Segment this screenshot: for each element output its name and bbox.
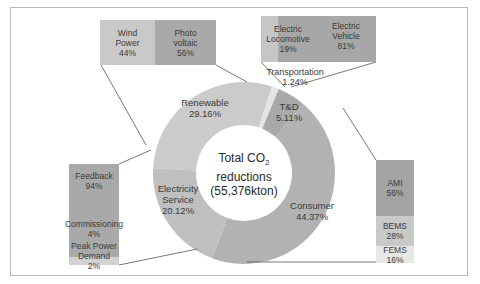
subscript-2: 2 (265, 158, 269, 167)
ami-pct: 56% (386, 188, 403, 198)
electricity-service-name-2: Service (150, 194, 206, 205)
connector-ami-top (343, 108, 376, 160)
connector-feedback-top (119, 150, 151, 164)
peak-power-demand-label-2: Demand (78, 251, 110, 261)
chart-canvas: Wind Power 44% Photo voltaic 56% Electri… (0, 0, 480, 284)
bems-bar: BEMS 28% (376, 216, 414, 246)
electric-locomotive-pct: 19% (279, 44, 296, 54)
wind-power-pct: 44% (119, 48, 136, 58)
peak-power-demand-text: Peak Power Demand 2% (62, 240, 126, 272)
bems-pct: 28% (386, 231, 403, 241)
photovoltaic-pct: 56% (177, 48, 194, 58)
feedback-text: Feedback 94% (69, 170, 119, 192)
bems-label: BEMS (383, 221, 407, 231)
ami-bar: AMI 56% (376, 160, 414, 216)
connector-wind-left (101, 65, 146, 145)
electricity-service-name-1: Electricity (150, 183, 206, 194)
center-title-line-2: reductions (199, 170, 289, 184)
electric-locomotive-label-1: Electric (274, 24, 302, 34)
fems-label: FEMS (383, 245, 407, 255)
renewable-pct: 29.16% (170, 108, 240, 119)
peak-power-demand-label-1: Peak Power (71, 241, 117, 251)
td-slice-label: T&D 5.11% (269, 101, 309, 123)
electric-vehicle-label-1: Electric (332, 21, 360, 31)
fems-pct: 16% (386, 255, 403, 265)
connector-pv-right (216, 65, 247, 82)
electric-locomotive-label-2: Locomotive (266, 34, 309, 44)
td-name: T&D (269, 101, 309, 112)
consumer-pct: 44.37% (284, 211, 340, 222)
peak-power-demand-pct: 2% (88, 261, 100, 271)
transportation-slice-label: Transportation 1.24% (262, 67, 328, 87)
renewable-slice-label: Renewable 29.16% (170, 97, 240, 119)
ami-label: AMI (387, 178, 402, 188)
commissioning-text: Commissioning 4% (60, 218, 128, 240)
commissioning-pct: 4% (88, 229, 100, 239)
renewable-name: Renewable (170, 97, 240, 108)
commissioning-label: Commissioning (65, 219, 123, 229)
wind-power-label-2: Power (115, 38, 139, 48)
feedback-pct: 94% (85, 181, 102, 191)
wind-power-bar: Wind Power 44% (100, 20, 155, 65)
photovoltaic-label-2: voltaic (173, 38, 197, 48)
photovoltaic-bar: Photo voltaic 56% (155, 20, 216, 65)
consumer-slice-label: Consumer 44.37% (284, 200, 340, 222)
electric-vehicle-text: Electric Vehicle 81% (326, 17, 366, 55)
center-total: (55,376kton) (199, 184, 289, 198)
electric-vehicle-label-2: Vehicle (332, 31, 359, 41)
transportation-name: Transportation (262, 67, 328, 77)
wind-power-label-1: Wind (118, 28, 137, 38)
transportation-pct: 1.24% (262, 77, 328, 87)
consumer-name: Consumer (284, 200, 340, 211)
feedback-label: Feedback (75, 171, 112, 181)
center-title-line: Total CO2 (199, 151, 289, 170)
td-pct: 5.11% (269, 112, 309, 123)
photovoltaic-label-1: Photo (174, 28, 196, 38)
electric-locomotive-text: Electric Locomotive 19% (262, 19, 314, 59)
electricity-service-slice-label: Electricity Service 20.12% (150, 183, 206, 216)
connector-peak-bottom (119, 249, 197, 265)
electricity-service-pct: 20.12% (150, 205, 206, 216)
electric-vehicle-pct: 81% (337, 41, 354, 51)
donut-center-label: Total CO2 reductions (55,376kton) (199, 151, 289, 198)
fems-bar: FEMS 16% (376, 246, 414, 263)
